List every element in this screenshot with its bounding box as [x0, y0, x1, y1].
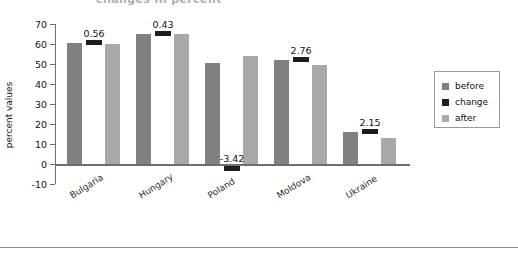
change-value-label: -3.42	[220, 153, 245, 164]
y-tick-mark	[50, 124, 55, 125]
bar-after	[105, 44, 120, 164]
legend-swatch-icon	[442, 99, 449, 106]
y-tick-mark	[50, 164, 55, 165]
y-tick-label: 20	[35, 119, 47, 130]
y-tick-mark	[50, 144, 55, 145]
y-tick-mark	[50, 104, 55, 105]
y-tick-label: 10	[35, 139, 47, 150]
y-tick-label: 0	[41, 159, 47, 170]
y-tick-label: 60	[35, 39, 47, 50]
change-value-label: 2.76	[290, 45, 311, 56]
plot-area: 706050403020100-10 0.560.43-3.422.762.15	[55, 24, 410, 184]
y-axis-line	[55, 24, 56, 184]
change-value-label: 2.15	[359, 117, 380, 128]
bar-after	[174, 34, 189, 164]
change-marker	[362, 129, 378, 134]
change-value-label: 0.56	[83, 28, 104, 39]
legend-label: before	[455, 82, 484, 91]
change-marker	[224, 166, 240, 171]
legend-label: after	[455, 114, 476, 123]
bar-after	[312, 65, 327, 164]
bar-after	[243, 56, 258, 164]
change-marker	[155, 31, 171, 36]
legend-item[interactable]: before	[442, 78, 499, 94]
y-tick-label: -10	[31, 179, 47, 190]
legend-label: change	[455, 98, 488, 107]
y-tick-label: 50	[35, 59, 47, 70]
y-tick-label: 40	[35, 79, 47, 90]
bar-after	[381, 138, 396, 164]
bar-before	[67, 43, 82, 164]
legend-item[interactable]: after	[442, 110, 499, 126]
chart-legend: beforechangeafter	[434, 71, 500, 128]
y-tick-mark	[50, 84, 55, 85]
y-tick-mark	[50, 44, 55, 45]
bar-before	[205, 63, 220, 164]
y-tick-mark	[50, 24, 55, 25]
bottom-divider	[0, 247, 518, 248]
legend-swatch-icon	[442, 83, 449, 90]
y-axis-title-text: percent values	[4, 82, 14, 149]
bar-before	[274, 60, 289, 164]
y-axis-title: percent values	[2, 60, 16, 170]
change-value-label: 0.43	[152, 19, 173, 30]
legend-item[interactable]: change	[442, 94, 499, 110]
bar-before	[343, 132, 358, 164]
y-tick-label: 70	[35, 19, 47, 30]
change-marker	[86, 40, 102, 45]
clipped-title-strip: changes in percent	[0, 0, 518, 9]
y-tick-mark	[50, 64, 55, 65]
legend-swatch-icon	[442, 115, 449, 122]
y-tick-label: 30	[35, 99, 47, 110]
change-marker	[293, 57, 309, 62]
clipped-title-text: changes in percent	[96, 0, 222, 6]
y-tick-mark	[50, 184, 55, 185]
chart-figure: changes in percent percent values 706050…	[0, 0, 518, 260]
bar-before	[136, 34, 151, 164]
